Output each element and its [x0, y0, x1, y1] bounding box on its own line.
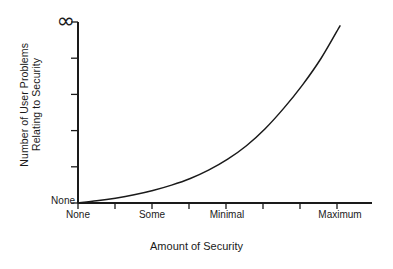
- x-axis-title: Amount of Security: [0, 240, 393, 252]
- y-axis-title-line-2: Relating to Security: [31, 58, 42, 151]
- y-axis-title: Number of User Problems Relating to Secu…: [0, 0, 60, 210]
- y-tick-label-none: None: [51, 195, 75, 207]
- y-axis-title-line-1: Number of User Problems: [19, 43, 30, 167]
- x-tick-label-maximum: Maximum: [318, 209, 361, 221]
- data-series-line: [78, 26, 340, 203]
- y-axis-ticks: [71, 22, 78, 203]
- x-tick-label-some: Some: [139, 209, 165, 221]
- x-tick-label-none: None: [66, 209, 90, 221]
- x-tick-label-minimal: Minimal: [210, 209, 244, 221]
- y-tick-label-infinity: ∞: [57, 10, 75, 32]
- chart-figure: Number of User Problems Relating to Secu…: [0, 0, 393, 269]
- x-axis-ticks: [78, 203, 337, 209]
